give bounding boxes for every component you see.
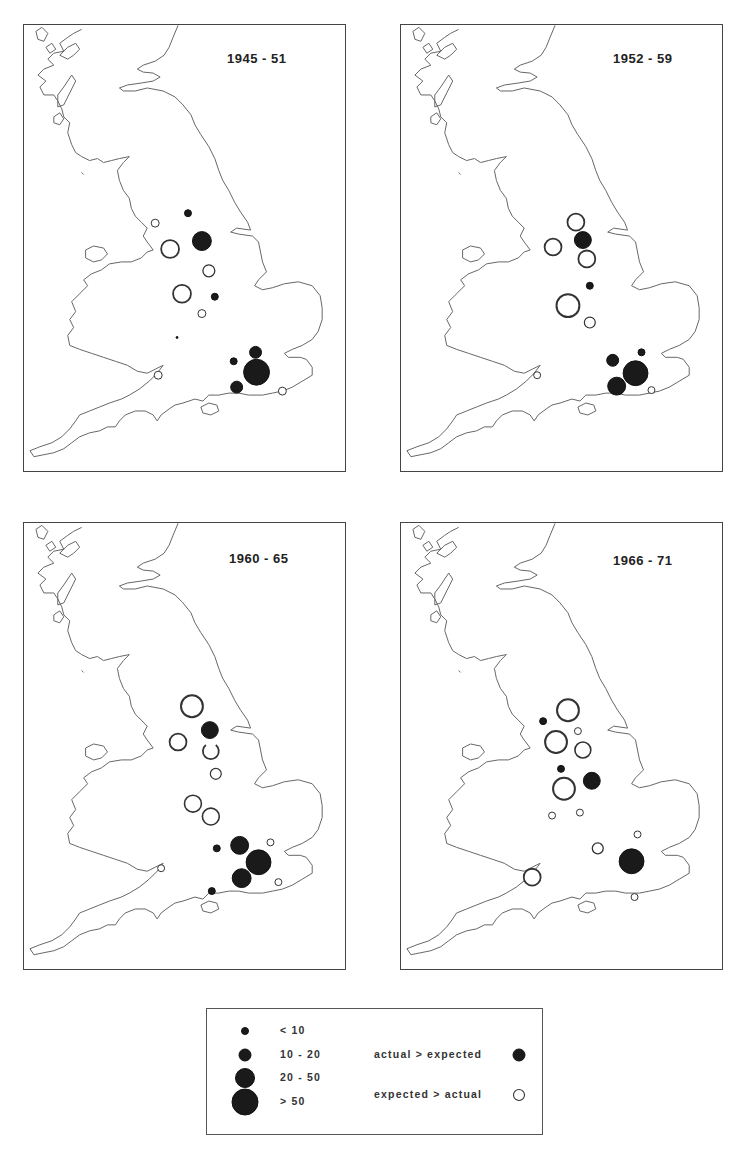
filled-circle-large: [608, 377, 626, 395]
filled-circle-large: [574, 232, 591, 249]
filled-circle-small: [211, 293, 218, 300]
filled-circle-small: [638, 349, 645, 356]
legend-label-20-50: 20 - 50: [280, 1071, 321, 1083]
open-circle-small: [576, 809, 583, 816]
open-circle-small: [534, 372, 541, 379]
open-circle-large: [202, 808, 219, 825]
legend-label-gt50: > 50: [280, 1095, 306, 1107]
filled-circle-xlarge: [623, 361, 648, 386]
filled-circle-xlarge: [246, 850, 271, 875]
map-panel-1945-51: 1945 - 51: [23, 24, 346, 472]
open-circle-xlarge: [553, 778, 575, 800]
open-circle-medium: [203, 265, 215, 277]
open-circle-large: [524, 869, 541, 886]
open-circle-xlarge: [545, 731, 567, 753]
filled-circle-large: [192, 232, 211, 251]
open-circle-small: [275, 879, 282, 886]
england-wales-outline-map: [24, 25, 345, 471]
filled-circle-small: [586, 282, 593, 289]
filled-circle-small: [558, 765, 565, 772]
open-circle-small: [154, 371, 162, 379]
filled-circle-small: [185, 210, 192, 217]
map-panel-1960-65: 1960 - 65: [23, 522, 346, 970]
filled-circle-xlarge: [244, 359, 270, 385]
filled-circle-medium: [250, 346, 262, 358]
open-circle-small: [634, 831, 641, 838]
panel-title: 1952 - 59: [613, 51, 672, 66]
legend-label-actual-gt-expected: actual > expected: [374, 1048, 482, 1060]
england-wales-outline-map: [24, 523, 345, 969]
open-circle-large: [575, 742, 591, 758]
map-panel-1966-71: 1966 - 71: [400, 522, 723, 970]
filled-circle-medium: [231, 381, 243, 393]
proportional-circles: [524, 699, 644, 900]
open-circle-small: [549, 812, 556, 819]
filled-circle-large: [201, 722, 218, 739]
open-circle-large: [170, 734, 187, 751]
proportional-circles: [158, 695, 282, 894]
filled-circle-small: [540, 718, 547, 725]
legend-circle-gt50: [232, 1089, 258, 1115]
panel-title: 1945 - 51: [227, 51, 286, 66]
open-circle-large: [545, 239, 562, 256]
filled-circle-xlarge: [619, 849, 644, 874]
legend-circle-lt10: [242, 1028, 249, 1035]
proportional-circles: [534, 214, 655, 395]
open-circle-medium: [592, 843, 603, 854]
england-wales-outline-map: [401, 25, 722, 471]
panel-title: 1960 - 65: [229, 551, 288, 566]
open-circle-small: [267, 839, 274, 846]
open-circle-large: [161, 240, 179, 258]
open-circle-small: [198, 310, 206, 318]
open-circle-xlarge: [181, 695, 203, 717]
open-circle-large: [185, 795, 202, 812]
open-circle-large-broken: [203, 745, 219, 759]
legend-circle-10-20: [239, 1049, 251, 1061]
legend-symbols: [207, 1009, 544, 1136]
open-circle-small: [278, 387, 286, 395]
open-circle-small: [631, 894, 638, 901]
filled-circle-large: [583, 772, 600, 789]
proportional-circles: [151, 210, 286, 395]
filled-circle-large: [232, 869, 251, 888]
filled-dot-tiny: [176, 336, 178, 338]
open-circle-small: [151, 219, 159, 227]
map-panel-1952-59: 1952 - 59: [400, 24, 723, 472]
open-circle-medium: [210, 768, 221, 779]
legend-open-circle-icon: [514, 1090, 525, 1101]
legend-label-lt10: < 10: [280, 1024, 306, 1036]
filled-circle-small: [208, 888, 215, 895]
filled-circle-medium: [607, 354, 619, 366]
open-circle-medium: [584, 317, 595, 328]
legend-label-10-20: 10 - 20: [280, 1048, 321, 1060]
open-circle-xlarge: [557, 294, 580, 317]
open-circle-small: [648, 387, 655, 394]
open-circle-large: [173, 285, 191, 303]
legend-filled-circle-icon: [513, 1049, 525, 1061]
england-wales-outline-map: [401, 523, 722, 969]
legend-circle-20-50: [236, 1069, 255, 1088]
open-circle-xlarge: [557, 699, 579, 721]
filled-circle-large: [231, 836, 249, 854]
open-circle-small: [158, 865, 165, 872]
open-circle-small: [574, 728, 581, 735]
open-circle-large: [567, 214, 584, 231]
open-circle-large: [578, 250, 595, 267]
filled-circle-small: [230, 358, 237, 365]
map-legend: < 10 10 - 20 20 - 50 > 50 actual > expec…: [206, 1008, 543, 1135]
filled-circle-small: [213, 845, 220, 852]
panel-title: 1966 - 71: [613, 553, 672, 568]
legend-label-expected-gt-actual: expected > actual: [374, 1088, 482, 1100]
